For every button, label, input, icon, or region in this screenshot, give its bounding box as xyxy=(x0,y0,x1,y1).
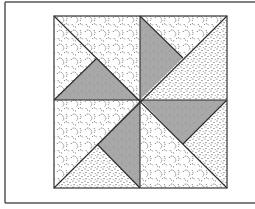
pinwheel-quilt-figure: Pinwheel quilt block xyxy=(0,0,255,209)
quilt-diagram-canvas xyxy=(0,0,255,209)
